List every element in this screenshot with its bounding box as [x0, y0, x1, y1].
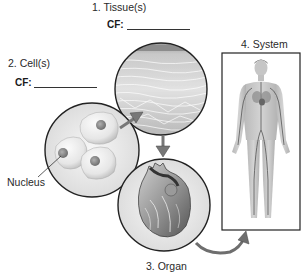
heart-illustration: [118, 159, 210, 251]
diagram-graphics: [0, 0, 303, 273]
circulatory-system-illustration: [222, 53, 300, 230]
nucleus-right: [90, 156, 100, 166]
arrow-tissue-to-organ: [156, 136, 170, 157]
arrow-organ-to-system: [196, 231, 249, 253]
nucleus-top: [96, 120, 106, 130]
nucleus-left: [58, 148, 68, 158]
